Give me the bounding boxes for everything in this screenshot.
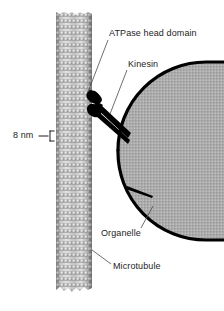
- label-kinesin: Kinesin: [128, 59, 158, 69]
- scale-bar: [39, 131, 54, 141]
- label-atpase-head-domain: ATPase head domain: [109, 28, 197, 38]
- organelle-structure: [110, 55, 224, 250]
- kinesin-microtubule-diagram: ATPase head domain Kinesin Organelle Mic…: [0, 0, 224, 311]
- kinesin-leader: [110, 70, 127, 114]
- label-microtubule: Microtubule: [113, 261, 161, 271]
- diagram-canvas: [0, 0, 224, 311]
- microtubule-structure: [56, 10, 92, 294]
- label-organelle: Organelle: [101, 228, 141, 238]
- microtubule-leader: [92, 250, 111, 264]
- label-scale-8nm: 8 nm: [13, 130, 33, 140]
